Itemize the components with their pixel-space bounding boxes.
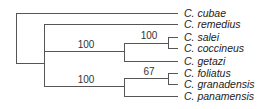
support-value: 100	[78, 39, 95, 50]
taxon-label: C. getazi	[184, 55, 226, 67]
support-value: 67	[143, 66, 155, 77]
taxon-label: C. coccineus	[184, 42, 245, 54]
phylogenetic-tree: C. cubae C. remedius C. salei C. coccine…	[0, 0, 266, 109]
taxon-label: C. remedius	[184, 18, 241, 30]
taxon-label: C. panamensis	[184, 90, 255, 102]
support-value: 100	[141, 30, 158, 41]
taxon-label: C. granadensis	[184, 78, 255, 90]
support-value: 100	[78, 74, 95, 85]
